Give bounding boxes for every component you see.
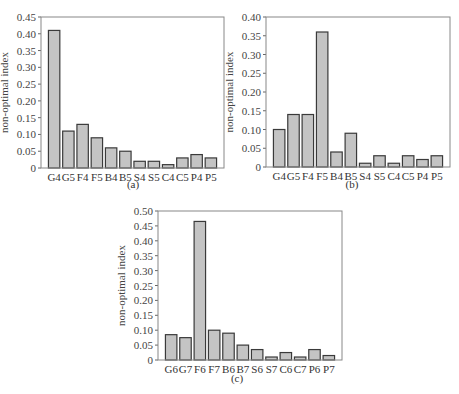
y-tick-label: 0.20: [17, 95, 37, 107]
y-tick-label: 0.40: [134, 235, 154, 247]
bar-b6: [223, 333, 234, 360]
bar-b5: [120, 151, 131, 168]
x-tick-label: C5: [402, 170, 415, 182]
y-tick-label: 0.25: [17, 78, 37, 90]
y-axis-label: non-optimal index: [0, 52, 10, 133]
bar-s5: [374, 156, 385, 167]
chart-caption: (c): [231, 372, 244, 385]
x-tick-label: P4: [417, 170, 429, 182]
y-tick-label: 0.10: [17, 128, 37, 140]
bar-c5: [177, 158, 188, 168]
y-tick-label: 0.20: [134, 294, 154, 306]
y-tick-label: 0.05: [134, 339, 154, 351]
y-tick-label: 0.30: [242, 49, 262, 61]
x-tick-label: F5: [316, 170, 328, 182]
x-tick-label: P7: [323, 363, 335, 375]
bar-p7: [323, 356, 334, 360]
x-tick-label: F6: [194, 363, 206, 375]
x-tick-label: C5: [176, 171, 189, 183]
bar-c4: [388, 163, 399, 167]
x-tick-label: S7: [266, 363, 278, 375]
x-tick-label: P5: [205, 171, 217, 183]
figure: 00.050.100.150.200.250.300.350.400.45non…: [0, 0, 459, 394]
bar-f4: [302, 115, 313, 168]
bar-c4: [162, 165, 173, 168]
y-tick-label: 0.45: [17, 11, 37, 23]
y-tick-label: 0: [31, 162, 37, 174]
bar-f6: [194, 221, 205, 360]
bar-s4: [359, 163, 370, 167]
bar-g5: [288, 115, 299, 168]
y-tick-label: 0.45: [134, 220, 154, 232]
bar-s4: [134, 161, 145, 168]
bar-s5: [148, 161, 159, 168]
bar-p4: [191, 155, 202, 168]
bar-p5: [431, 156, 442, 167]
y-tick-label: 0.10: [134, 324, 154, 336]
y-tick-label: 0.35: [134, 250, 154, 262]
x-tick-label: P4: [191, 171, 203, 183]
x-tick-label: G4: [47, 171, 61, 183]
y-tick-label: 0: [256, 161, 262, 173]
y-axis-label: non-optimal index: [115, 245, 127, 326]
x-tick-label: S5: [148, 171, 160, 183]
y-tick-label: 0.40: [17, 28, 37, 40]
x-tick-label: C4: [162, 171, 175, 183]
x-tick-label: B4: [105, 171, 118, 183]
y-tick-label: 0.25: [134, 280, 154, 292]
x-tick-label: C6: [279, 363, 292, 375]
y-axis-label: non-optimal index: [223, 51, 235, 132]
x-tick-label: F4: [77, 171, 89, 183]
bar-f4: [77, 124, 88, 168]
x-tick-label: S5: [374, 170, 386, 182]
x-tick-label: P5: [431, 170, 443, 182]
chart-c: 00.050.100.150.200.250.300.350.400.450.5…: [115, 205, 342, 385]
bar-g6: [165, 335, 176, 360]
x-tick-label: F5: [91, 171, 103, 183]
bar-g4: [48, 30, 59, 168]
bar-c5: [402, 156, 413, 167]
bar-g7: [180, 338, 191, 360]
bar-c6: [280, 353, 291, 360]
y-tick-label: 0.40: [242, 11, 262, 23]
x-tick-label: G5: [62, 171, 76, 183]
x-tick-label: G6: [164, 363, 178, 375]
bar-b5: [345, 133, 356, 167]
x-tick-label: B4: [330, 170, 343, 182]
bar-b7: [237, 345, 248, 360]
y-tick-label: 0.15: [17, 112, 37, 124]
chart-caption: (b): [346, 178, 359, 191]
x-tick-label: G4: [272, 170, 286, 182]
y-tick-label: 0.25: [242, 67, 262, 79]
bar-g5: [63, 131, 74, 168]
x-tick-label: P6: [309, 363, 321, 375]
bar-g4: [273, 130, 284, 168]
bar-f5: [91, 138, 102, 168]
y-tick-label: 0.05: [242, 142, 262, 154]
y-tick-label: 0.35: [242, 30, 262, 42]
bar-s6: [251, 350, 262, 360]
y-tick-label: 0.15: [134, 309, 154, 321]
x-tick-label: F4: [302, 170, 314, 182]
y-tick-label: 0.30: [17, 61, 37, 73]
x-tick-label: C7: [294, 363, 307, 375]
y-tick-label: 0.05: [17, 145, 37, 157]
chart-a: 00.050.100.150.200.250.300.350.400.45non…: [0, 11, 224, 191]
y-tick-label: 0.20: [242, 86, 262, 98]
bar-b4: [105, 148, 116, 168]
y-tick-label: 0.30: [134, 265, 154, 277]
bar-p6: [309, 350, 320, 360]
y-tick-label: 0.10: [242, 124, 262, 136]
x-tick-label: G5: [287, 170, 301, 182]
y-tick-label: 0.35: [17, 45, 37, 57]
bar-b4: [331, 152, 342, 167]
chart-caption: (a): [127, 178, 140, 191]
bar-p4: [417, 160, 428, 168]
x-tick-label: F7: [208, 363, 220, 375]
x-tick-label: G7: [179, 363, 193, 375]
y-tick-label: 0.15: [242, 105, 262, 117]
bar-f5: [316, 32, 327, 167]
y-tick-label: 0: [148, 354, 154, 366]
bar-f7: [208, 330, 219, 360]
y-tick-label: 0.50: [134, 205, 154, 217]
